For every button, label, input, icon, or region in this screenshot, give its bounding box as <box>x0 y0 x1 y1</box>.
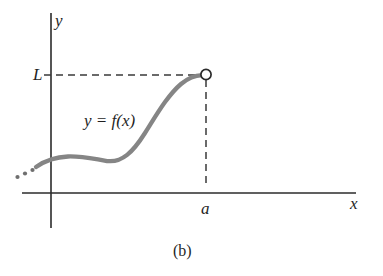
ellipsis-dot-3 <box>30 168 34 172</box>
limit-graph-svg <box>0 0 383 276</box>
function-equation-label: y = f(x) <box>84 112 135 129</box>
limit-value-label: L <box>33 66 42 83</box>
figure-caption: (b) <box>173 243 192 259</box>
ellipsis-dot-2 <box>23 171 27 175</box>
x-point-label: a <box>201 200 210 217</box>
open-endpoint-circle <box>201 69 211 79</box>
ellipsis-dot-1 <box>15 175 19 179</box>
y-axis-label: y <box>55 12 63 29</box>
x-axis-label: x <box>350 195 358 212</box>
figure-container: y x L a y = f(x) (b) <box>0 0 383 276</box>
